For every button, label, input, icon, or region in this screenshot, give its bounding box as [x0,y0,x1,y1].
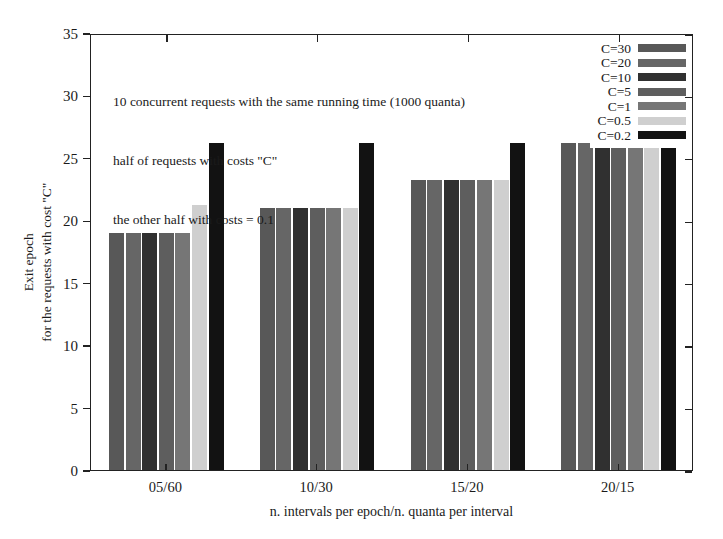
y-tick-mark [83,408,90,409]
y-tick-mark [83,33,90,34]
x-tick-mark [467,464,468,471]
legend-label: C=30 [601,42,638,56]
x-tick-label: 05/60 [149,480,182,495]
x-tick-label: 20/15 [601,480,634,495]
bar [595,143,610,470]
y-tick-label: 20 [63,214,78,229]
legend-item: C=10 [598,70,687,85]
legend-item: C=20 [598,56,687,71]
legend-swatch [638,117,686,125]
y-tick-label: 10 [63,339,78,354]
y-tick-label: 30 [63,89,78,104]
bar [628,143,643,470]
y-tick-mark-right [685,284,692,285]
legend-item: C=5 [598,85,687,100]
x-tick-mark-top [619,35,620,42]
annotation-text: 10 concurrent requests with the same run… [113,53,465,268]
plot-area: 10 concurrent requests with the same run… [90,34,693,471]
y-axis: 05101520253035 Exit epoch for the reques… [0,34,90,471]
y-tick-label: 0 [71,464,79,479]
x-tick-label: 15/20 [450,480,483,495]
annotation-line-1: 10 concurrent requests with the same run… [113,92,465,112]
x-axis-title: n. intervals per epoch/n. quanta per int… [90,504,693,520]
y-tick-label: 35 [63,27,78,42]
legend-swatch [638,73,686,81]
y-tick-label: 25 [63,151,78,166]
legend-swatch [638,88,686,96]
legend-swatch [638,44,686,52]
y-tick-label: 5 [71,401,79,416]
legend-swatch [638,59,686,67]
y-axis-title-line-1: Exit epoch [20,112,38,412]
bar [578,143,593,470]
bar [661,143,676,470]
y-tick-mark-right [685,409,692,410]
y-tick-mark-right [685,159,692,160]
x-tick-mark [165,464,166,471]
legend-item: C=0.5 [598,114,687,129]
y-tick-mark [83,96,90,97]
legend-item: C=1 [598,99,687,114]
legend-label: C=0.2 [598,129,639,143]
x-tick-mark-top [166,35,167,42]
legend-label: C=1 [608,100,638,114]
legend-item: C=0.2 [598,128,687,143]
bar [494,180,509,470]
bar [109,233,124,470]
y-tick-mark [83,470,90,471]
bar [510,143,525,470]
annotation-line-2: half of requests with costs "C" [113,151,465,171]
y-tick-mark [83,283,90,284]
x-tick-mark [618,464,619,471]
legend-swatch [638,102,686,110]
y-tick-mark [83,158,90,159]
x-axis: 05/6010/3015/2020/15 n. intervals per ep… [90,471,693,531]
bar-chart-figure: 05101520253035 Exit epoch for the reques… [0,0,723,539]
legend-label: C=10 [601,71,638,85]
y-tick-mark [83,345,90,346]
legend-label: C=20 [601,56,638,70]
annotation-line-3: the other half with costs = 0.1 [113,210,465,230]
x-tick-mark-top [317,35,318,42]
bar [644,143,659,470]
y-tick-mark-right [685,34,692,35]
legend: C=30C=20C=10C=5C=1C=0.5C=0.2 [590,35,693,148]
legend-label: C=0.5 [598,114,639,128]
y-axis-title-line-2: for the requests with cost "C" [38,112,56,412]
y-tick-mark-right [685,97,692,98]
bar [126,233,141,470]
legend-item: C=30 [598,41,687,56]
bar [175,233,190,470]
y-tick-mark-right [685,222,692,223]
x-tick-mark [316,464,317,471]
x-tick-mark-top [468,35,469,42]
bar [561,143,576,470]
bar [477,180,492,470]
y-axis-title: Exit epoch for the requests with cost "C… [20,112,56,412]
y-tick-mark-right [685,346,692,347]
bar [611,143,626,470]
x-tick-label: 10/30 [300,480,333,495]
legend-swatch [638,131,686,139]
bar [142,233,157,470]
legend-label: C=5 [608,85,638,99]
y-tick-label: 15 [63,276,78,291]
y-tick-mark [83,221,90,222]
bar [159,233,174,470]
